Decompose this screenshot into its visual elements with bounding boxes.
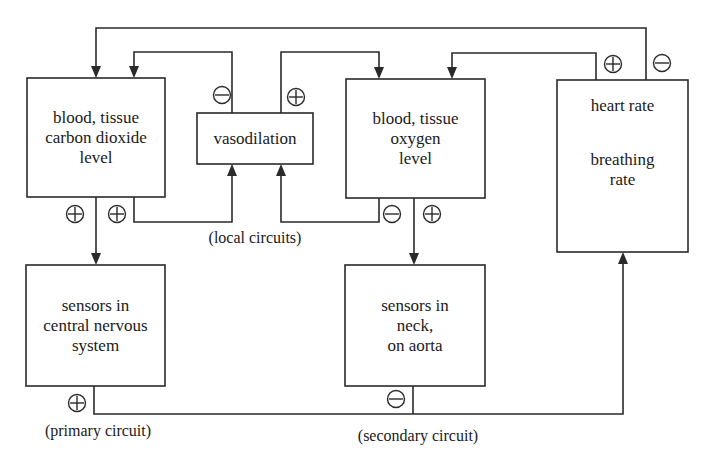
connector-heart-to-o2 [452, 53, 596, 80]
plus-sign-icon [605, 56, 622, 73]
arrowhead-icon [409, 253, 419, 265]
label-line: breathing [590, 150, 654, 170]
minus-sign-icon [388, 391, 405, 408]
label-sensors-cns: sensors in central nervous system [26, 265, 165, 386]
label-line: on aorta [387, 336, 442, 356]
plus-sign-icon [67, 206, 84, 223]
label-sensors-neck: sensors in neck, on aorta [345, 265, 485, 386]
minus-sign-icon [384, 206, 401, 223]
label-line: blood, tissue [373, 109, 459, 129]
connector-heart-to-co2 [96, 28, 646, 80]
label-line: vasodilation [213, 129, 296, 149]
plus-sign-icon [109, 206, 126, 223]
label-line: blood, tissue [53, 108, 139, 128]
minus-sign-icon [654, 55, 671, 72]
plus-sign-icon [424, 206, 441, 223]
caption-secondary-circuit: (secondary circuit) [358, 427, 478, 445]
feedback-diagram [0, 0, 707, 467]
label-line: carbon dioxide [45, 128, 147, 148]
plus-sign-icon [69, 395, 86, 412]
label-line: system [72, 336, 119, 356]
plus-sign-icon [288, 89, 305, 106]
arrowhead-icon [276, 164, 286, 176]
arrowhead-icon [91, 66, 101, 78]
label-line: central nervous [43, 316, 147, 336]
label-line: level [79, 148, 112, 168]
arrowhead-icon [227, 164, 237, 176]
minus-sign-icon [214, 87, 231, 104]
label-o2-level: blood, tissue oxygen level [346, 79, 485, 198]
caption-local-circuits: (local circuits) [209, 229, 302, 247]
label-line: sensors in [62, 296, 130, 316]
label-line: rate [610, 170, 635, 190]
label-co2-level: blood, tissue carbon dioxide level [27, 78, 165, 197]
arrowhead-icon [447, 67, 457, 79]
arrowhead-icon [129, 66, 139, 78]
caption-primary-circuit: (primary circuit) [45, 422, 151, 440]
label-line: oxygen [390, 129, 440, 149]
arrowhead-icon [374, 67, 384, 79]
label-line: level [399, 149, 432, 169]
arrowhead-icon [91, 253, 101, 265]
label-heart-breathing-rate: heart rate breathing rate [557, 96, 688, 206]
arrowhead-icon [618, 252, 628, 264]
label-line: heart rate [591, 96, 655, 116]
label-vasodilation: vasodilation [197, 113, 313, 164]
label-line: neck, [397, 316, 433, 336]
label-line: sensors in [381, 296, 449, 316]
